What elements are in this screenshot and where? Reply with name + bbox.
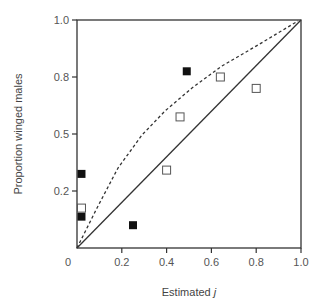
scatter-chart: 00.20.40.60.81.0 0.20.50.81.0 Estimated … bbox=[0, 0, 323, 306]
y-tick-label: 1.0 bbox=[54, 14, 69, 26]
filled-square-marker bbox=[129, 221, 137, 229]
open-square-marker bbox=[216, 73, 224, 81]
y-axis-title: Proportion winged males bbox=[12, 73, 24, 195]
x-axis-title: Estimated j bbox=[162, 286, 217, 298]
filled-square-marker bbox=[77, 170, 85, 178]
x-tick-label: 1.0 bbox=[293, 256, 308, 268]
x-tick-label: 0.4 bbox=[159, 256, 174, 268]
x-tick-label: 0.6 bbox=[204, 256, 219, 268]
reference-lines bbox=[77, 20, 301, 248]
y-tick-label: 0.2 bbox=[54, 185, 69, 197]
filled-square-marker bbox=[77, 213, 85, 221]
open-square-marker bbox=[163, 166, 171, 174]
x-tick-label: 0.8 bbox=[249, 256, 264, 268]
data-points bbox=[77, 67, 260, 229]
y-tick-label: 0.5 bbox=[54, 128, 69, 140]
x-axis-ticks: 00.20.40.60.81.0 bbox=[65, 248, 309, 268]
x-tick-label: 0.2 bbox=[114, 256, 129, 268]
filled-square-marker bbox=[183, 67, 191, 75]
x-tick-label: 0 bbox=[65, 256, 71, 268]
identity-line bbox=[77, 20, 301, 248]
y-axis-ticks: 0.20.50.81.0 bbox=[54, 14, 77, 197]
y-tick-label: 0.8 bbox=[54, 71, 69, 83]
open-square-marker bbox=[176, 113, 184, 121]
open-square-marker bbox=[252, 84, 260, 92]
open-square-marker bbox=[77, 204, 85, 212]
